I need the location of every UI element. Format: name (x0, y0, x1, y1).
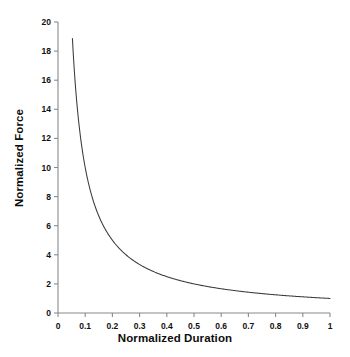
y-tick-label: 8 (46, 192, 51, 202)
data-series-line (72, 38, 330, 298)
x-tick-label: 0.6 (215, 321, 227, 331)
y-axis-ticks (54, 22, 58, 313)
x-tick-label: 0.8 (270, 321, 282, 331)
y-axis-title: Normalized Force (13, 78, 25, 238)
y-tick-label: 18 (42, 46, 51, 56)
x-tick-label: 1 (328, 321, 333, 331)
y-tick-label: 20 (42, 17, 51, 27)
x-tick-label: 0.5 (188, 321, 200, 331)
y-tick-label: 10 (42, 163, 51, 173)
x-tick-label: 0.9 (297, 321, 309, 331)
x-tick-label: 0.4 (161, 321, 173, 331)
x-tick-label: 0 (56, 321, 61, 331)
x-tick-label: 0.2 (106, 321, 118, 331)
x-axis-ticks (58, 313, 330, 317)
x-axis-title: Normalized Duration (0, 332, 350, 344)
axis-lines (58, 22, 330, 313)
y-tick-label: 16 (42, 75, 51, 85)
y-tick-label: 4 (46, 250, 51, 260)
y-tick-label: 2 (46, 279, 51, 289)
chart-container: 02468101214161820 00.10.20.30.40.50.60.7… (0, 0, 350, 357)
y-tick-label: 14 (42, 104, 51, 114)
y-tick-label: 12 (42, 133, 51, 143)
plot-area (0, 0, 350, 357)
x-tick-label: 0.3 (134, 321, 146, 331)
x-tick-label: 0.7 (242, 321, 254, 331)
y-tick-label: 6 (46, 221, 51, 231)
x-tick-label: 0.1 (79, 321, 91, 331)
y-tick-label: 0 (46, 308, 51, 318)
